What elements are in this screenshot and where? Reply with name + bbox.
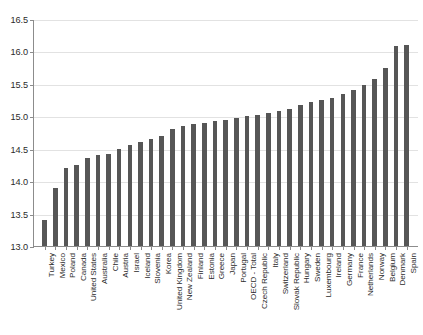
bar[interactable] xyxy=(213,121,218,246)
bar-slot xyxy=(210,20,221,246)
bar[interactable] xyxy=(372,79,377,246)
x-axis-tick-mark xyxy=(130,246,131,250)
bar[interactable] xyxy=(330,98,335,246)
y-axis-tick-label: 16.5 xyxy=(11,15,28,25)
bar[interactable] xyxy=(159,136,164,246)
bar-slot xyxy=(71,20,82,246)
y-axis-tick-label: 15.0 xyxy=(11,112,28,122)
y-axis-tick-label: 15.5 xyxy=(11,80,28,90)
bar-slot xyxy=(401,20,412,246)
bar[interactable] xyxy=(64,168,69,246)
bar[interactable] xyxy=(223,120,228,246)
x-axis-tick-mark xyxy=(364,246,365,250)
x-axis-tick-mark xyxy=(236,246,237,250)
x-axis-tick-label: Poland xyxy=(68,253,77,278)
bar[interactable] xyxy=(202,123,207,246)
x-axis-tick-mark xyxy=(375,246,376,250)
x-axis-tick-label: Slovenia xyxy=(153,253,162,284)
bar-slot xyxy=(156,20,167,246)
bar-slot xyxy=(125,20,136,246)
bar[interactable] xyxy=(191,124,196,246)
x-axis-tick-mark xyxy=(215,246,216,250)
bar-slot xyxy=(348,20,359,246)
bar-slot xyxy=(199,20,210,246)
bar[interactable] xyxy=(404,45,409,246)
bar[interactable] xyxy=(106,154,111,246)
bar[interactable] xyxy=(181,126,186,246)
y-axis-tick-label: 14.5 xyxy=(11,145,28,155)
x-axis-labels: TurkeyMexicoPolandCanadaUnited StatesAus… xyxy=(33,253,418,335)
bar[interactable] xyxy=(96,155,101,246)
x-axis-tick-mark xyxy=(343,246,344,250)
bar[interactable] xyxy=(170,129,175,246)
bar-slot xyxy=(338,20,349,246)
bar[interactable] xyxy=(362,85,367,246)
bar[interactable] xyxy=(138,142,143,246)
bar-slot xyxy=(39,20,50,246)
x-axis-tick-label: Turkey xyxy=(47,253,56,277)
bar-slot xyxy=(369,20,380,246)
bar[interactable] xyxy=(74,165,79,246)
bar-slot xyxy=(231,20,242,246)
x-axis-tick-label: United States xyxy=(89,253,98,301)
bar[interactable] xyxy=(341,94,346,246)
bar[interactable] xyxy=(319,100,324,246)
bar[interactable] xyxy=(149,139,154,246)
x-axis-tick-mark xyxy=(247,246,248,250)
bar[interactable] xyxy=(234,118,239,246)
bar[interactable] xyxy=(266,113,271,246)
x-axis-tick-mark xyxy=(226,246,227,250)
bar-slot xyxy=(391,20,402,246)
x-axis-tick-mark xyxy=(279,246,280,250)
bar-slot xyxy=(188,20,199,246)
bar[interactable] xyxy=(128,145,133,246)
bar[interactable] xyxy=(53,188,58,246)
x-axis-tick-label: Portugal xyxy=(239,253,248,283)
x-axis-tick-label: Norway xyxy=(377,253,386,280)
y-axis-tick-mark xyxy=(30,247,34,248)
bar-slot xyxy=(146,20,157,246)
y-axis-tick-label: 13.5 xyxy=(11,210,28,220)
bars-layer xyxy=(34,20,418,246)
bar[interactable] xyxy=(298,105,303,246)
bar[interactable] xyxy=(245,116,250,246)
bar-slot xyxy=(284,20,295,246)
x-axis-tick-label: Israel xyxy=(132,253,141,273)
x-axis-tick-label: Luxembourg xyxy=(324,253,333,298)
x-axis-tick-label: Finland xyxy=(196,253,205,279)
x-axis-tick-mark xyxy=(396,246,397,250)
bar-slot xyxy=(167,20,178,246)
x-axis-tick-mark xyxy=(385,246,386,250)
x-axis-tick-mark xyxy=(162,246,163,250)
bar-slot xyxy=(306,20,317,246)
bar[interactable] xyxy=(255,115,260,246)
bar-slot xyxy=(252,20,263,246)
bar[interactable] xyxy=(383,68,388,246)
x-axis-tick-label: Germany xyxy=(345,253,354,286)
x-axis-tick-label: Korea xyxy=(164,253,173,274)
x-axis-tick-label: Belgium xyxy=(388,253,397,282)
bar[interactable] xyxy=(287,109,292,246)
bar[interactable] xyxy=(309,102,314,246)
bar-slot xyxy=(135,20,146,246)
bar[interactable] xyxy=(394,46,399,246)
x-axis-tick-mark xyxy=(77,246,78,250)
bar[interactable] xyxy=(117,149,122,246)
bar[interactable] xyxy=(85,158,90,246)
x-axis-tick-mark xyxy=(258,246,259,250)
bar[interactable] xyxy=(42,220,47,246)
x-axis-tick-mark xyxy=(87,246,88,250)
bar-slot xyxy=(93,20,104,246)
bar-slot xyxy=(220,20,231,246)
bar[interactable] xyxy=(351,90,356,246)
x-axis-tick-mark xyxy=(151,246,152,250)
x-axis-tick-mark xyxy=(290,246,291,250)
x-axis-tick-mark xyxy=(172,246,173,250)
bar[interactable] xyxy=(277,111,282,246)
y-axis-tick-label: 13.0 xyxy=(11,242,28,252)
bar-slot xyxy=(327,20,338,246)
x-axis-tick-label: Austria xyxy=(121,253,130,278)
x-axis-tick-label: Chile xyxy=(111,253,120,271)
x-axis-tick-label: Hungary xyxy=(302,253,311,283)
x-axis-tick-mark xyxy=(300,246,301,250)
